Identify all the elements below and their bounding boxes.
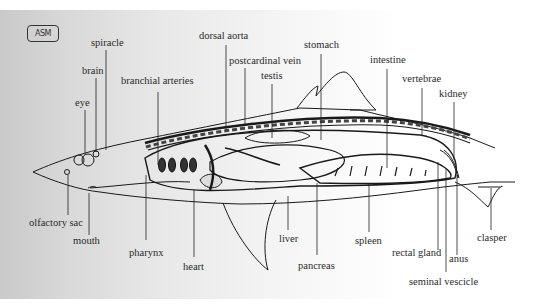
label-olfactory-sac: olfactory sac — [29, 217, 83, 229]
label-dorsal-aorta: dorsal aorta — [199, 30, 248, 42]
label-eye: eye — [75, 97, 90, 109]
label-pharynx: pharynx — [129, 247, 163, 259]
label-brain: brain — [82, 65, 104, 77]
label-clasper: clasper — [477, 232, 507, 244]
shark-anatomy-diagram: ASM — [0, 0, 534, 308]
label-intestine: intestine — [370, 54, 406, 66]
label-kidney: kidney — [439, 88, 468, 100]
label-heart: heart — [183, 261, 204, 273]
label-mouth: mouth — [73, 235, 100, 247]
label-rectal-gland: rectal gland — [392, 247, 441, 259]
label-seminal-vescicle: seminal vescicle — [409, 276, 478, 288]
label-vertebrae: vertebrae — [402, 73, 441, 85]
label-spleen: spleen — [355, 235, 382, 247]
label-stomach: stomach — [304, 39, 339, 51]
label-spiracle: spiracle — [91, 37, 124, 49]
label-liver: liver — [279, 233, 298, 245]
label-anus: anus — [449, 253, 468, 265]
label-postcardinal-vein: postcardinal vein — [229, 55, 301, 67]
label-testis: testis — [261, 70, 283, 82]
label-branchial-arteries: branchial arteries — [121, 75, 194, 87]
label-pancreas: pancreas — [298, 260, 335, 272]
